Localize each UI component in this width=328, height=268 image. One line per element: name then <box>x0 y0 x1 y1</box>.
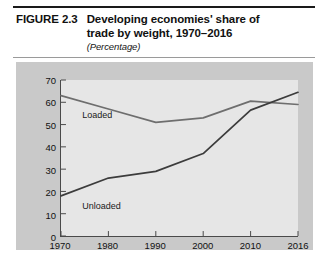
y-axis-tick-label: 30 <box>45 164 56 175</box>
figure-title: Developing economies' share of trade by … <box>87 12 260 53</box>
y-axis-tick-label: 50 <box>45 119 56 130</box>
series-line-unloaded <box>61 92 298 196</box>
header-rule-bottom <box>13 57 315 58</box>
x-axis-tick-label: 2000 <box>192 240 213 251</box>
chart-panel: 010203040506070 LoadedUnloaded 197019801… <box>16 62 313 250</box>
y-axis-tick-label: 70 <box>45 75 56 86</box>
chart-svg <box>61 80 298 236</box>
x-axis-tick-label: 2016 <box>287 240 308 251</box>
figure-title-line-2: trade by weight, 1970–2016 <box>87 26 260 40</box>
x-axis-tick-label: 1980 <box>97 240 118 251</box>
x-axis-tick-label: 1970 <box>49 240 70 251</box>
y-axis-tick-label: 60 <box>45 97 56 108</box>
y-axis-tick-labels: 010203040506070 <box>30 80 56 237</box>
series-label-unloaded: Unloaded <box>82 201 121 211</box>
y-axis-tick-label: 20 <box>45 187 56 198</box>
figure-title-block: FIGURE 2.3 Developing economies' share o… <box>16 12 316 53</box>
figure-number-label: FIGURE 2.3 <box>16 12 78 26</box>
x-axis-tick-label: 1990 <box>145 240 166 251</box>
y-axis-tick-label: 40 <box>45 142 56 153</box>
figure-container: FIGURE 2.3 Developing economies' share o… <box>0 0 328 268</box>
plot-area: LoadedUnloaded <box>60 80 298 237</box>
x-axis-tick-label: 2010 <box>240 240 261 251</box>
x-axis-tick-labels: 197019801990200020102016 <box>60 240 298 256</box>
figure-title-line-1: Developing economies' share of <box>87 12 260 26</box>
y-axis-tick-label: 10 <box>45 209 56 220</box>
header-rule-top <box>13 6 315 8</box>
series-label-loaded: Loaded <box>82 110 112 120</box>
title-row: FIGURE 2.3 Developing economies' share o… <box>16 12 316 53</box>
figure-subtitle: (Percentage) <box>87 41 260 53</box>
